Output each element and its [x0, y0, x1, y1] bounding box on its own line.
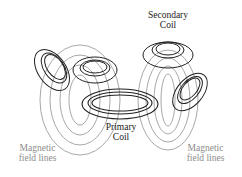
secondary-coil: [143, 42, 193, 68]
secondary-coil-label: Secondary Coil: [138, 10, 198, 30]
coil-center: [73, 57, 117, 83]
field-lines-right-label: Magnetic field lines: [178, 143, 233, 163]
field-lines-left-label: Magnetic field lines: [10, 143, 65, 163]
field-lines-right: [138, 50, 198, 150]
primary-coil-label: Primary Coil: [96, 122, 146, 142]
